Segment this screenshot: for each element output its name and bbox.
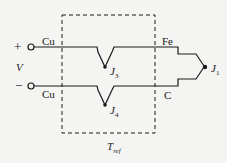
junction-j4-dot: [103, 103, 107, 107]
voltage-label: V: [16, 62, 23, 73]
plus-sign: +: [14, 40, 21, 53]
plus-terminal: [28, 44, 34, 50]
wire-label-bottom-left: Cu: [42, 89, 55, 100]
junction-j1-label: J1: [211, 63, 219, 77]
top-wire: [34, 47, 204, 67]
junction-j3-dot: [103, 65, 107, 69]
junction-j3-label: J3: [110, 66, 118, 80]
wire-label-top-left: Cu: [42, 36, 55, 47]
thermocouple-diagram: + − V Cu Cu Fe C J3 J4 J1 Tref: [0, 0, 227, 163]
bottom-wire: [34, 67, 204, 105]
circuit-drawing: [0, 0, 227, 163]
junction-j4-label: J4: [110, 105, 118, 119]
minus-terminal: [28, 83, 34, 89]
minus-sign: −: [15, 79, 22, 92]
reference-temperature-label: Tref: [107, 141, 121, 155]
reference-enclosure: [62, 15, 155, 133]
wire-label-top-right: Fe: [162, 36, 173, 47]
wire-label-bottom-right: C: [164, 90, 171, 101]
junction-j1-dot: [203, 65, 207, 69]
